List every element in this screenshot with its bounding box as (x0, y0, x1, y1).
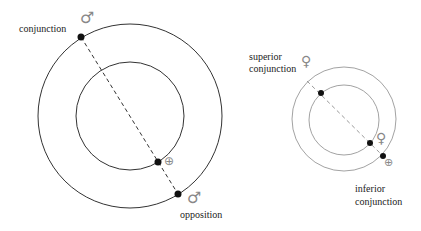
mars-diagram (38, 24, 222, 208)
venus-symbol-inferior-icon: ♀ (376, 131, 386, 145)
earth-dot-left (155, 159, 162, 166)
venus-at-superior-conjunction-dot (318, 90, 324, 96)
mars-at-opposition-dot (175, 191, 182, 198)
venus-symbol-superior-icon: ♀ (301, 54, 311, 68)
superior-conjunction-label-line2: conjunction (249, 63, 296, 75)
inferior-conjunction-label-line2: conjunction (355, 196, 402, 208)
mars-symbol-conjunction-icon: ♂ (80, 10, 94, 26)
opposition-label: opposition (180, 209, 222, 221)
earth-symbol-right-icon: ⊕ (384, 157, 393, 168)
venus-at-inferior-conjunction-dot (367, 140, 373, 146)
inferior-conjunction-label-line1: inferior (355, 183, 385, 195)
venus-diagram (292, 67, 396, 171)
superior-conjunction-label-line1: superior (249, 51, 282, 63)
mars-at-conjunction-dot (78, 34, 85, 41)
conjunction-label: conjunction (19, 23, 66, 35)
mars-symbol-opposition-icon: ♂ (187, 190, 201, 206)
earth-symbol-icon: ⊕ (164, 155, 174, 167)
